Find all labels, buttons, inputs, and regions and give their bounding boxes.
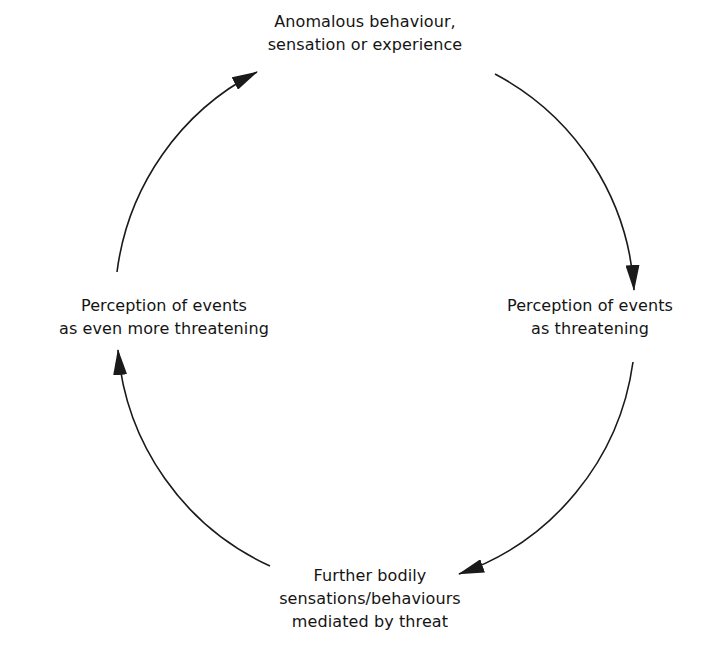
node-bottom-line-1: Further bodily [250,564,490,587]
node-bottom-line-3: mediated by threat [250,610,490,633]
edge-right-to-bottom [459,362,633,574]
node-top-line-2: sensation or experience [235,33,495,56]
edge-top-to-right [495,74,634,290]
node-left-line-1: Perception of events [44,294,284,317]
edge-bottom-to-left [118,350,270,566]
node-left-line-2: as even more threatening [44,317,284,340]
node-top-line-1: Anomalous behaviour, [235,10,495,33]
node-perception-threatening: Perception of events as threatening [475,294,705,340]
node-right-line-1: Perception of events [475,294,705,317]
node-further-sensations: Further bodily sensations/behaviours med… [250,564,490,633]
edge-left-to-top [117,72,257,272]
node-perception-more-threatening: Perception of events as even more threat… [44,294,284,340]
node-anomalous-experience: Anomalous behaviour, sensation or experi… [235,10,495,56]
node-right-line-2: as threatening [475,317,705,340]
node-bottom-line-2: sensations/behaviours [250,587,490,610]
